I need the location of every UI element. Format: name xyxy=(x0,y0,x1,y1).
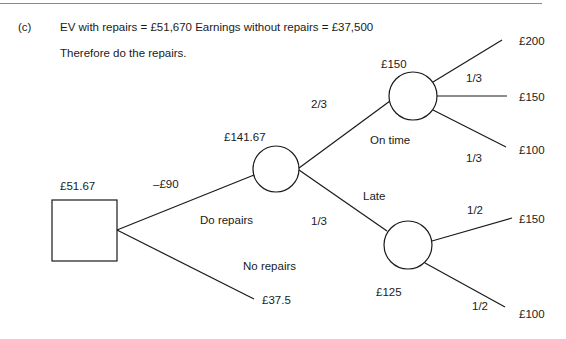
on-time-outcome-probability-3: 1/3 xyxy=(466,152,482,164)
late-outcome-probability-2: 1/2 xyxy=(472,300,488,312)
chance-node-main-value: £141.67 xyxy=(224,131,266,143)
late-outcome-probability-1: 1/2 xyxy=(467,204,483,216)
late-outcome-payoff-2: £100 xyxy=(519,308,545,320)
on-time-label: On time xyxy=(370,134,410,146)
decision-node-square xyxy=(52,200,117,261)
chance-node-on-time-value: £150 xyxy=(381,58,407,70)
late-label: Late xyxy=(363,190,385,202)
no-repairs-payoff: £37.5 xyxy=(262,294,291,306)
chance-node-late-value: £125 xyxy=(376,286,402,298)
chance-node-main xyxy=(253,146,299,192)
on-time-probability: 2/3 xyxy=(311,98,327,110)
on-time-outcome-branch-3 xyxy=(433,110,506,147)
decision-node-value: £51.67 xyxy=(60,180,95,192)
late-outcome-payoff-1: £150 xyxy=(519,213,545,225)
decision-tree: £51.67 –£90 Do repairs No repairs £37.5 … xyxy=(0,0,566,339)
on-time-outcome-payoff-2: £150 xyxy=(519,91,545,103)
late-probability: 1/3 xyxy=(311,215,327,227)
do-repairs-cost: –£90 xyxy=(153,178,179,190)
do-repairs-label: Do repairs xyxy=(200,214,253,226)
on-time-outcome-payoff-3: £100 xyxy=(519,144,545,156)
on-time-outcome-probability-2: 1/3 xyxy=(466,72,482,84)
no-repairs-branch xyxy=(117,230,254,299)
late-outcome-branch-2 xyxy=(425,263,505,307)
chance-node-on-time xyxy=(389,72,437,120)
no-repairs-label: No repairs xyxy=(243,260,296,272)
chance-node-late xyxy=(384,221,432,269)
on-time-outcome-payoff-1: £200 xyxy=(519,35,545,47)
late-outcome-branch-1 xyxy=(432,218,512,241)
